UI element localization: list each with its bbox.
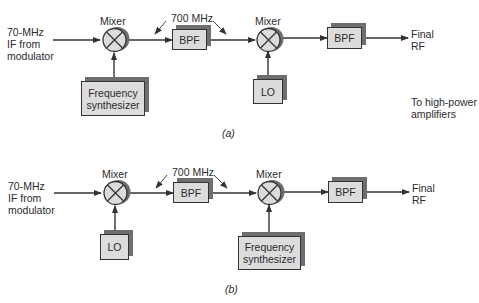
- local-oscillator-block: LO: [100, 234, 129, 260]
- diagram-a: 70-MHz IF from modulator Mixer 700 MHz B…: [0, 0, 479, 150]
- bpf-1-label: BPF: [181, 187, 201, 199]
- caption-a: (a): [222, 127, 235, 139]
- output-label: Final RF: [412, 182, 435, 206]
- local-oscillator-block: LO: [253, 79, 283, 104]
- lo-label: LO: [107, 241, 121, 253]
- input-label: 70-MHz IF from modulator: [7, 26, 54, 62]
- mixer-2-label: Mixer: [255, 15, 281, 27]
- signal-paths-b: [0, 150, 479, 300]
- bpf-2-label: BPF: [334, 32, 354, 44]
- frequency-synthesizer-block: Frequency synthesizer: [238, 236, 301, 270]
- diagram-b: 70-MHz IF from modulator Mixer 700 MHz B…: [0, 150, 479, 300]
- frequency-label: 700 MHz: [172, 166, 214, 178]
- frequency-synthesizer-label: Frequency synthesizer: [243, 241, 296, 265]
- caption-b: (b): [225, 283, 238, 295]
- input-label: 70-MHz IF from modulator: [8, 180, 55, 216]
- bandpass-filter-2: BPF: [327, 27, 362, 49]
- output-label: Final RF: [411, 28, 434, 52]
- bpf-2-label: BPF: [335, 186, 355, 198]
- frequency-label: 700 MHz: [171, 12, 213, 24]
- mixer-1-icon: [102, 27, 127, 52]
- mixer-1-label: Mixer: [102, 168, 128, 180]
- signal-paths-a: [0, 0, 479, 150]
- mixer-1-label: Mixer: [100, 15, 126, 27]
- bandpass-filter-1: BPF: [172, 29, 207, 50]
- bpf-1-label: BPF: [179, 34, 199, 46]
- frequency-synthesizer-block: Frequency synthesizer: [81, 81, 145, 116]
- mixer-1-icon: [103, 180, 128, 205]
- bandpass-filter-1: BPF: [173, 182, 209, 203]
- mixer-2-icon: [257, 180, 282, 205]
- mixer-2-label: Mixer: [256, 168, 282, 180]
- destination-note: To high-power amplifiers: [411, 96, 477, 120]
- bandpass-filter-2: BPF: [328, 181, 363, 203]
- lo-label: LO: [261, 86, 275, 98]
- frequency-synthesizer-label: Frequency synthesizer: [86, 87, 139, 111]
- mixer-2-icon: [256, 27, 281, 52]
